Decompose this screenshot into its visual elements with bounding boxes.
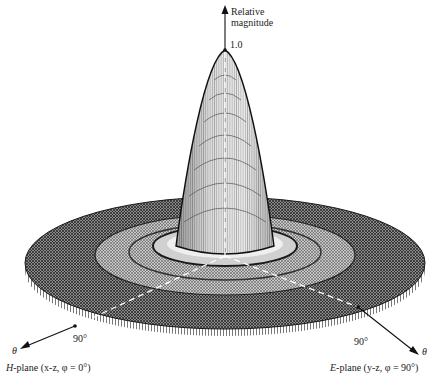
e-plane-tick-label: 90° — [354, 336, 368, 347]
vertical-axis-label-line2: magnitude — [231, 17, 273, 28]
peak-value-label: 1.0 — [230, 39, 243, 50]
arrow-up-icon — [222, 5, 229, 14]
vertical-axis-label-line1: Relative — [231, 6, 264, 17]
e-plane-label-rest: -plane (y-z, φ = 90°) — [336, 362, 418, 373]
arrow-left-icon — [20, 341, 30, 349]
h-plane-theta-symbol: θ — [12, 345, 17, 356]
e-plane-label: E-plane (y-z, φ = 90°) — [330, 362, 418, 373]
h-plane-tick-label: 90° — [73, 333, 87, 344]
arrow-right-icon — [409, 346, 419, 355]
radiation-pattern-diagram — [0, 0, 441, 378]
h-plane-label: H-plane (x-z, φ = 0°) — [6, 362, 91, 373]
h-plane-label-rest: -plane (x-z, φ = 0°) — [13, 362, 90, 373]
e-plane-theta-symbol: θ — [422, 346, 427, 357]
